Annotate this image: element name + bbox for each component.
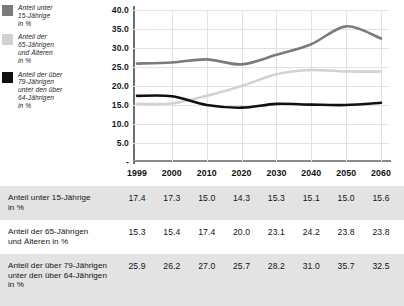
table-cell: 23.8 bbox=[372, 227, 389, 237]
table-cell: 17.3 bbox=[163, 193, 180, 203]
x-axis-tick-label: 2040 bbox=[301, 168, 321, 178]
table-cell: 26.2 bbox=[163, 261, 180, 271]
plot-area bbox=[133, 10, 389, 162]
table-cell: 15.4 bbox=[163, 227, 180, 237]
table-row-label: Anteil unter 15-Jährige in % bbox=[8, 193, 91, 212]
y-axis-tick-label: 15.0 bbox=[112, 100, 129, 110]
table-cell: 25.7 bbox=[233, 261, 250, 271]
table-cell: 28.2 bbox=[268, 261, 285, 271]
x-axis-tick-label: 2010 bbox=[197, 168, 217, 178]
table-cell: 15.1 bbox=[303, 193, 320, 203]
y-axis-tick-label: 10.0 bbox=[112, 119, 129, 129]
legend-item-label: Anteil der 65-Jährigen und Älteren in % bbox=[18, 33, 54, 64]
table-cell: 23.8 bbox=[338, 227, 355, 237]
x-axis-tick-label: 2020 bbox=[232, 168, 252, 178]
table-cell: 15.0 bbox=[198, 193, 215, 203]
legend-swatch-icon bbox=[2, 72, 13, 83]
table-row: Anteil der über 79-Jährigen unter den üb… bbox=[0, 254, 404, 297]
table-row-label: Anteil der über 79-Jährigen unter den üb… bbox=[8, 261, 107, 290]
table-cell: 25.9 bbox=[128, 261, 145, 271]
line-chart: 40.035.030.025.020.015.010.05.0- bbox=[96, 4, 396, 186]
y-axis-tick-label: 35.0 bbox=[112, 24, 129, 34]
table-cell: 15.3 bbox=[268, 193, 285, 203]
y-axis-tick-label: 30.0 bbox=[112, 43, 129, 53]
x-axis-labels: 19992000201020202030204020502060 bbox=[96, 168, 396, 184]
series-line bbox=[137, 96, 381, 108]
table-cell: 24.2 bbox=[303, 227, 320, 237]
table-cell: 35.7 bbox=[338, 261, 355, 271]
y-axis-tick-label: 5.0 bbox=[117, 138, 129, 148]
table-cell: 14.3 bbox=[233, 193, 250, 203]
table-row-label: Anteil der 65-Jährigen und Älteren in % bbox=[8, 227, 88, 246]
y-axis-tick-label: 20.0 bbox=[112, 81, 129, 91]
table-cell: 17.4 bbox=[128, 193, 145, 203]
data-table: Anteil unter 15-Jährige in %17.417.315.0… bbox=[0, 186, 404, 297]
table-cell: 15.6 bbox=[372, 193, 389, 203]
legend-item: Anteil der 65-Jährigen und Älteren in % bbox=[2, 33, 94, 64]
table-row: Anteil unter 15-Jährige in %17.417.315.0… bbox=[0, 186, 404, 220]
legend-item: Anteil der über 79-Jährigen unter den üb… bbox=[2, 71, 94, 110]
y-axis-labels: 40.035.030.025.020.015.010.05.0- bbox=[96, 4, 129, 164]
table-cell: 17.4 bbox=[198, 227, 215, 237]
series-lines bbox=[133, 10, 389, 162]
table-cell: 32.5 bbox=[372, 261, 389, 271]
table-cell: 27.0 bbox=[198, 261, 215, 271]
chart-legend: Anteil unter 15-Jährige in %Anteil der 6… bbox=[2, 4, 94, 116]
table-row: Anteil der 65-Jährigen und Älteren in %1… bbox=[0, 220, 404, 254]
x-axis-tick-label: 2050 bbox=[336, 168, 356, 178]
legend-swatch-icon bbox=[2, 34, 13, 45]
x-axis-tick-label: 2000 bbox=[162, 168, 182, 178]
table-cell: 20.0 bbox=[233, 227, 250, 237]
table-cell: 31.0 bbox=[303, 261, 320, 271]
legend-swatch-icon bbox=[2, 5, 13, 16]
series-line bbox=[137, 26, 381, 64]
y-axis-tick-label: - bbox=[126, 157, 129, 167]
legend-item: Anteil unter 15-Jährige in % bbox=[2, 4, 94, 27]
x-axis-tick-label: 1999 bbox=[127, 168, 147, 178]
legend-item-label: Anteil unter 15-Jährige in % bbox=[18, 4, 53, 27]
x-axis-tick-label: 2030 bbox=[266, 168, 286, 178]
series-line bbox=[137, 70, 381, 104]
table-cell: 15.3 bbox=[128, 227, 145, 237]
y-axis-tick-label: 25.0 bbox=[112, 62, 129, 72]
table-cell: 23.1 bbox=[268, 227, 285, 237]
table-cell: 15.0 bbox=[338, 193, 355, 203]
table-bottom-strip bbox=[0, 297, 404, 306]
y-axis-tick-label: 40.0 bbox=[112, 5, 129, 15]
legend-item-label: Anteil der über 79-Jährigen unter den üb… bbox=[18, 71, 62, 110]
x-axis-tick-label: 2060 bbox=[371, 168, 391, 178]
chart-page: Anteil unter 15-Jährige in %Anteil der 6… bbox=[0, 0, 404, 306]
